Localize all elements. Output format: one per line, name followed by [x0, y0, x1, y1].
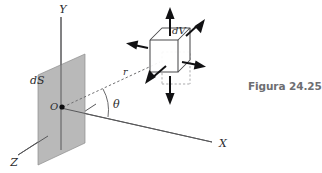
axis-label-x: X	[218, 137, 228, 150]
flux-arrow-upper-right-head	[194, 19, 205, 33]
flux-arrow-up-head	[165, 7, 174, 19]
axis-label-z: Z	[9, 156, 18, 169]
flux-arrow-right-head	[194, 60, 206, 69]
label-surface-element-ds: dS	[30, 74, 45, 87]
figure-caption: Figura 24.25	[248, 80, 318, 92]
label-angle-theta: θ	[113, 98, 120, 111]
flux-arrow-left-head	[126, 41, 138, 50]
label-volume-element-dv: dV	[172, 25, 187, 36]
origin-point-dot	[59, 104, 64, 109]
axis-label-y: Y	[59, 3, 68, 16]
angle-theta-arc	[103, 89, 109, 117]
label-radius-r: r	[123, 66, 129, 77]
label-origin-o: O	[50, 101, 58, 112]
flux-arrow-down-head	[165, 93, 174, 105]
figure-container: Y X Z dS O r θ dV Figura 24.25	[0, 0, 322, 173]
